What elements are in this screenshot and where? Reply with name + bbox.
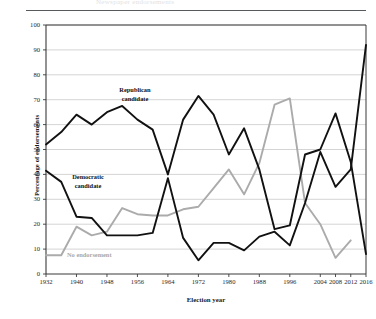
x-tick-1940: 1940	[61, 278, 91, 285]
y-tick-40: 40	[18, 170, 40, 177]
y-tick-100: 100	[18, 21, 40, 28]
x-tick-1972: 1972	[183, 278, 213, 285]
x-tick-1932: 1932	[31, 278, 61, 285]
figure: Newspaper endorsements Percentage of end…	[0, 0, 376, 319]
x-tick-1988: 1988	[244, 278, 274, 285]
annotation-no-endorsement: No endorsement	[67, 251, 112, 260]
y-tick-90: 90	[18, 46, 40, 53]
y-tick-0: 0	[18, 270, 40, 277]
x-axis-label: Election year	[46, 296, 366, 303]
y-tick-80: 80	[18, 71, 40, 78]
x-tick-1956: 1956	[122, 278, 152, 285]
annotation-republican: Republican candidate	[104, 86, 166, 103]
x-tick-1948: 1948	[92, 278, 122, 285]
annotation-democratic: Democratic candidate	[58, 173, 118, 190]
x-tick-1996: 1996	[275, 278, 305, 285]
y-tick-20: 20	[18, 220, 40, 227]
y-tick-60: 60	[18, 121, 40, 128]
x-tick-1980: 1980	[214, 278, 244, 285]
plot-area	[0, 0, 376, 319]
annotation-democratic-line2: candidate	[58, 182, 118, 191]
annotation-republican-line2: candidate	[104, 95, 166, 104]
line-chart	[0, 0, 376, 319]
y-tick-30: 30	[18, 195, 40, 202]
y-axis-label: Percentage of endorsements	[33, 81, 40, 231]
x-tick-2016: 2016	[351, 278, 376, 285]
annotation-republican-line1: Republican	[104, 86, 166, 95]
annotation-democratic-line1: Democratic	[58, 173, 118, 182]
y-tick-10: 10	[18, 245, 40, 252]
y-tick-50: 50	[18, 146, 40, 153]
x-tick-1964: 1964	[153, 278, 183, 285]
y-tick-70: 70	[18, 96, 40, 103]
